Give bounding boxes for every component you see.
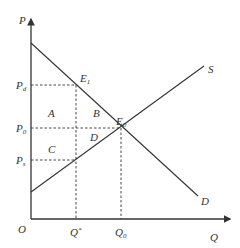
demand-curve: [31, 43, 198, 196]
demand-label: D: [200, 195, 209, 207]
y-axis-label: P: [18, 14, 26, 26]
supply-label: S: [208, 63, 214, 75]
q0-label: Q0: [115, 226, 127, 240]
supply-demand-diagram: P Q O S D E1 E0 Pd P0 Ps Q* Q0 A B C D: [0, 0, 240, 248]
region-a-label: A: [47, 107, 55, 119]
pd-label: Pd: [15, 79, 27, 93]
e1-label: E1: [79, 72, 90, 86]
supply-curve: [31, 66, 204, 192]
qstar-label: Q*: [70, 226, 82, 238]
region-b-label: B: [93, 107, 100, 119]
region-d-label: D: [89, 131, 98, 143]
e0-label: E0: [115, 115, 127, 129]
x-axis-label: Q: [210, 231, 218, 243]
ps-label: Ps: [15, 154, 26, 168]
origin-label: O: [18, 223, 26, 235]
region-c-label: C: [48, 143, 56, 155]
p0-label: P0: [15, 122, 27, 136]
